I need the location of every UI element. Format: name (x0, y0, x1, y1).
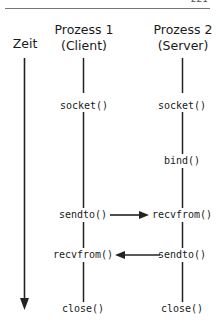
server-recvfrom-call: recvfrom() (137, 209, 220, 221)
time-arrow-icon (20, 298, 29, 310)
server-bind-call: bind() (137, 155, 220, 167)
client-sendto-call: sendto() (38, 209, 128, 221)
server-close-call: close() (137, 303, 220, 315)
server-socket-call: socket() (137, 100, 220, 112)
client-socket-call: socket() (39, 100, 129, 112)
client-close-call: close() (38, 303, 128, 315)
server-sendto-call: sendto() (137, 249, 220, 261)
client-recvfrom-call: recvfrom() (38, 249, 128, 261)
